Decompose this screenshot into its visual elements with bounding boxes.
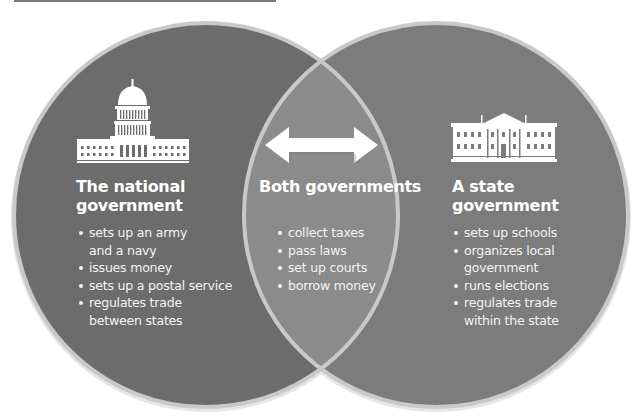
list-item: issues money bbox=[78, 259, 232, 277]
national-title-line2: government bbox=[76, 196, 185, 215]
list-item: borrow money bbox=[277, 277, 376, 295]
national-powers-list: sets up an army and a navy issues money … bbox=[78, 224, 232, 329]
both-governments-heading: Both governments bbox=[259, 177, 421, 196]
state-title-line2: government bbox=[452, 196, 559, 215]
shared-powers-list: collect taxes pass laws set up courts bo… bbox=[277, 224, 376, 294]
list-item: runs elections bbox=[453, 277, 559, 295]
state-government-heading: A state government bbox=[452, 177, 559, 215]
list-item: collect taxes bbox=[277, 224, 376, 242]
state-title-line1: A state bbox=[452, 177, 559, 196]
list-item: sets up a postal service bbox=[78, 277, 232, 295]
national-title-line1: The national bbox=[76, 177, 185, 196]
white-house-building-icon bbox=[451, 111, 557, 163]
national-government-heading: The national government bbox=[76, 177, 185, 215]
list-item: regulates trade between states bbox=[78, 294, 232, 329]
list-item: pass laws bbox=[277, 242, 376, 260]
list-item: sets up an army and a navy bbox=[78, 224, 232, 259]
list-item: set up courts bbox=[277, 259, 376, 277]
state-powers-list: sets up schools organizes local governme… bbox=[453, 224, 559, 329]
double-arrow-icon bbox=[265, 126, 378, 164]
list-item: regulates trade within the state bbox=[453, 294, 559, 329]
list-item: organizes local government bbox=[453, 242, 559, 277]
capitol-building-icon bbox=[77, 79, 189, 165]
list-item: sets up schools bbox=[453, 224, 559, 242]
